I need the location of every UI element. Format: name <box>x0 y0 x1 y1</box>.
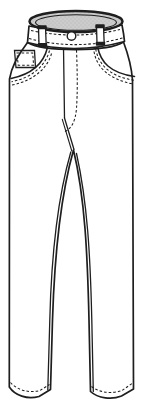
belt-loop-left <box>37 25 47 47</box>
belt-loop-left-body <box>39 27 47 45</box>
waistband <box>28 11 125 49</box>
trousers-body <box>9 42 133 398</box>
belt-loop-right-body <box>97 26 105 44</box>
waistband-button <box>67 32 76 41</box>
belt-loop-right-top-bar <box>95 24 104 28</box>
belt-loop-right-bottom-bar <box>96 42 105 46</box>
belt-loop-left-top-bar <box>37 25 46 29</box>
trousers-flat-sketch <box>0 0 145 404</box>
belt-loop-right <box>95 24 105 46</box>
body-silhouette <box>9 42 133 398</box>
belt-loop-left-bottom-bar <box>38 43 47 47</box>
trousers-flat-sketch-svg <box>0 0 145 404</box>
